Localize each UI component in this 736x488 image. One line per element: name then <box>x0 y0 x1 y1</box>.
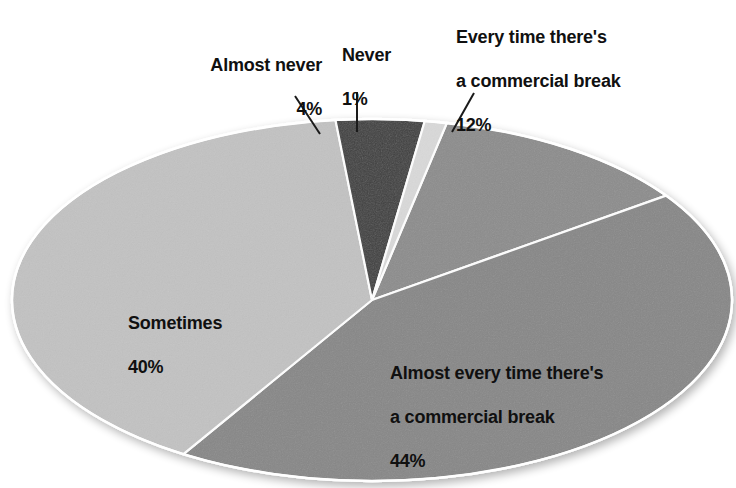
slice-label-almost-never-value: 4% <box>122 98 322 120</box>
slice-label-never-value: 1% <box>342 88 412 110</box>
slice-label-never-text: Never <box>342 44 412 66</box>
slice-label-sometimes: Sometimes 40% <box>128 290 308 400</box>
slice-label-almost-never: Almost never 4% <box>122 32 322 142</box>
slice-label-sometimes-value: 40% <box>128 356 308 378</box>
slice-label-almost-never-text: Almost never <box>122 54 322 76</box>
slice-label-every-time-line2: a commercial break <box>456 70 728 92</box>
slice-label-never: Never 1% <box>342 22 412 132</box>
slice-label-almost-every-time: Almost every time there's a commercial b… <box>390 340 690 488</box>
slice-label-sometimes-text: Sometimes <box>128 312 308 334</box>
slice-label-every-time-line1: Every time there's <box>456 26 728 48</box>
pie-chart: Almost never 4% Never 1% Every time ther… <box>0 0 736 488</box>
slice-label-every-time: Every time there's a commercial break 12… <box>456 4 728 158</box>
slice-label-almost-every-time-value: 44% <box>390 450 690 472</box>
slice-label-almost-every-time-line1: Almost every time there's <box>390 362 690 384</box>
slice-label-every-time-value: 12% <box>456 114 728 136</box>
slice-label-almost-every-time-line2: a commercial break <box>390 406 690 428</box>
